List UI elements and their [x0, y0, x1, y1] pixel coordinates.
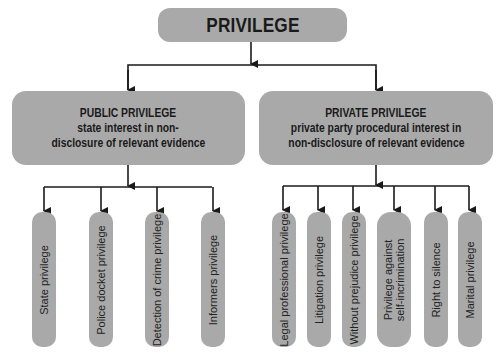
leaf-police-docket-privilege: Police docket privilege — [89, 212, 113, 347]
leaf-label: Marital privilege — [464, 241, 476, 318]
leaf-detection-of-crime-privilege: Detection of crime privilege — [145, 212, 169, 347]
leaf-label: Litigation privilege — [313, 235, 325, 323]
leaf-privilege-against-self-incrimination: Privilege against self-incrimination — [377, 212, 411, 347]
private-desc-line1: private party procedural interest in — [291, 121, 461, 136]
root-label: PRIVILEGE — [206, 13, 299, 37]
node-private-privilege: PRIVATE PRIVILEGE private party procedur… — [259, 91, 493, 165]
private-title: PRIVATE PRIVILEGE — [325, 106, 426, 121]
private-desc-line2: non-disclosure of relevant evidence — [288, 136, 464, 151]
leaf-label: Right to silence — [430, 242, 442, 317]
leaf-without-prejudice-privilege: Without prejudice privilege — [342, 212, 366, 347]
leaf-label: Police docket privilege — [95, 225, 107, 334]
leaf-label: Without prejudice privilege — [348, 215, 360, 344]
leaf-state-privilege: State privilege — [32, 212, 56, 347]
leaf-litigation-privilege: Litigation privilege — [307, 212, 331, 347]
leaf-label: Privilege against self-incrimination — [382, 238, 406, 321]
leaf-label-line2: self-incrimination — [394, 238, 406, 321]
node-public-privilege: PUBLIC PRIVILEGE state interest in non- … — [12, 91, 245, 165]
leaf-legal-professional-privilege: Legal professional privilege — [272, 212, 296, 347]
leaf-label: Informers privilege — [207, 234, 219, 324]
public-desc-line2: disclosure of relevant evidence — [52, 136, 206, 151]
public-title: PUBLIC PRIVILEGE — [80, 106, 176, 121]
leaf-label-line1: Privilege against — [382, 238, 394, 321]
leaf-right-to-silence: Right to silence — [424, 212, 448, 347]
leaf-label: Legal professional privilege — [278, 213, 290, 346]
leaf-label: Detection of crime privilege — [151, 213, 163, 346]
root-node-privilege: PRIVILEGE — [158, 8, 347, 42]
leaf-label: State privilege — [38, 245, 50, 315]
leaf-marital-privilege: Marital privilege — [458, 212, 482, 347]
public-desc-line1: state interest in non- — [78, 121, 179, 136]
leaf-informers-privilege: Informers privilege — [201, 212, 225, 347]
